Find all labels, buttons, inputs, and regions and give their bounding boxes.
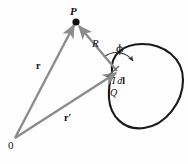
vector-r-prime-arrow: [15, 73, 116, 138]
figure-container: P R ϕ r r′ I dl Q 0: [0, 0, 188, 164]
vector-R-arrow: [79, 26, 117, 71]
vector-r-arrow: [15, 25, 74, 138]
current-loop-curve: [109, 44, 183, 128]
diagram-canvas: [0, 0, 188, 164]
point-P-dot: [72, 18, 79, 25]
